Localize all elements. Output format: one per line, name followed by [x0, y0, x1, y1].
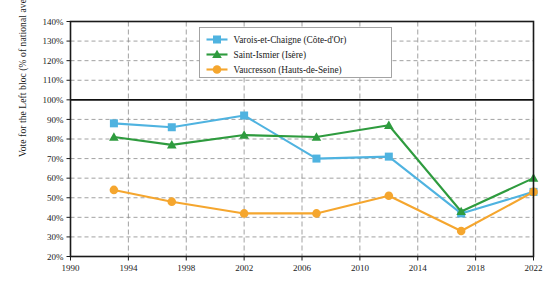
svg-text:80%: 80% [47, 134, 64, 144]
svg-text:130%: 130% [43, 36, 65, 46]
svg-text:Vaucresson (Hauts-de-Seine): Vaucresson (Hauts-de-Seine) [234, 65, 342, 76]
svg-text:140%: 140% [43, 17, 65, 27]
chart-legend: Varois-et-Chaigne (Côte-d'Or)Saint-Ismie… [200, 28, 392, 78]
svg-text:20%: 20% [47, 252, 64, 262]
svg-text:30%: 30% [47, 232, 64, 242]
svg-text:2006: 2006 [293, 263, 312, 273]
svg-text:1990: 1990 [62, 263, 81, 273]
svg-text:40%: 40% [47, 213, 64, 223]
svg-text:2002: 2002 [235, 263, 253, 273]
svg-text:1994: 1994 [119, 263, 138, 273]
svg-text:Varois-et-Chaigne (Côte-d'Or): Varois-et-Chaigne (Côte-d'Or) [234, 35, 347, 46]
svg-text:2010: 2010 [351, 263, 370, 273]
line-chart-plot: 20%30%40%50%60%70%80%90%100%110%120%130%… [0, 0, 547, 286]
y-axis-ticks: 20%30%40%50%60%70%80%90%100%110%120%130%… [43, 17, 71, 262]
svg-text:120%: 120% [43, 56, 65, 66]
svg-text:2022: 2022 [525, 263, 543, 273]
svg-text:70%: 70% [47, 154, 64, 164]
svg-text:110%: 110% [43, 75, 64, 85]
svg-text:2014: 2014 [409, 263, 428, 273]
svg-text:1998: 1998 [177, 263, 196, 273]
x-axis-ticks: 199019941998200220062010201420182022 [62, 257, 543, 273]
svg-text:90%: 90% [47, 115, 64, 125]
svg-text:50%: 50% [47, 193, 64, 203]
figure-caption [0, 272, 547, 286]
svg-text:2018: 2018 [467, 263, 486, 273]
chart-figure: Vote for the Left bloc (% of national av… [0, 0, 547, 286]
data-series-layer [109, 112, 538, 236]
svg-text:60%: 60% [47, 173, 64, 183]
svg-text:Saint-Ismier (Isère): Saint-Ismier (Isère) [234, 50, 307, 61]
svg-text:100%: 100% [43, 95, 65, 105]
